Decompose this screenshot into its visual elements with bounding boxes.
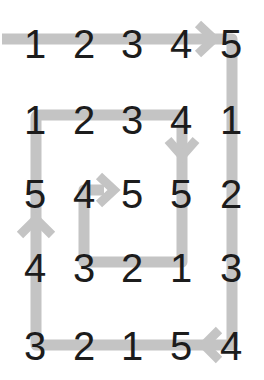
grid-cell-r4c3: 2 — [112, 246, 152, 290]
grid-cell-r4c5: 3 — [211, 246, 251, 290]
grid-cell-r3c3: 5 — [112, 172, 152, 216]
grid-cell-r5c4: 5 — [161, 324, 201, 368]
grid-cell-r4c1: 4 — [15, 246, 55, 290]
grid-cell-r5c2: 2 — [64, 324, 104, 368]
grid-cell-r4c2: 3 — [64, 246, 104, 290]
grid-cell-r3c2: 4 — [64, 172, 104, 216]
grid-cell-r4c4: 1 — [161, 246, 201, 290]
grid-cell-r5c1: 3 — [15, 324, 55, 368]
grid-cell-r1c1: 1 — [15, 22, 55, 66]
grid-cell-r3c1: 5 — [15, 172, 55, 216]
grid-cell-r2c3: 3 — [112, 98, 152, 142]
spiral-number-grid: 1 2 3 4 5 1 2 3 4 1 5 4 5 5 2 4 3 2 1 3 … — [0, 0, 264, 380]
grid-cell-r2c1: 1 — [15, 98, 55, 142]
grid-cell-r2c4: 4 — [161, 98, 201, 142]
grid-cell-r5c3: 1 — [112, 324, 152, 368]
grid-cell-r1c4: 4 — [161, 22, 201, 66]
grid-cell-r3c4: 5 — [161, 172, 201, 216]
grid-cell-r3c5: 2 — [211, 172, 251, 216]
grid-cell-r1c2: 2 — [64, 22, 104, 66]
grid-cell-r2c5: 1 — [211, 98, 251, 142]
grid-cell-r1c5: 5 — [211, 22, 251, 66]
grid-cell-r1c3: 3 — [112, 22, 152, 66]
grid-cell-r5c5: 4 — [211, 324, 251, 368]
grid-cell-r2c2: 2 — [64, 98, 104, 142]
